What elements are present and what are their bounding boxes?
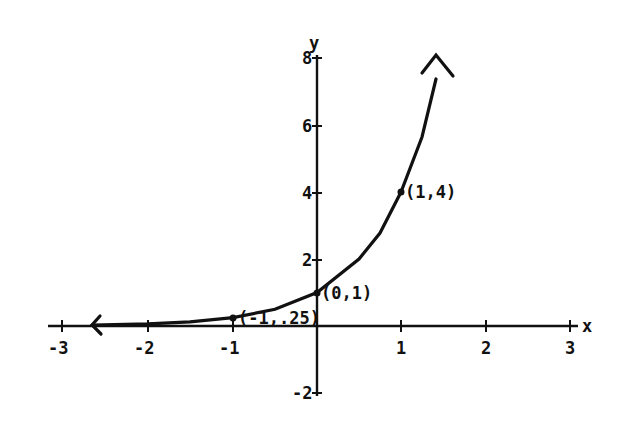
up-arrow-icon [422, 55, 453, 76]
x-tick-label: -1 [219, 338, 239, 358]
point-label: (-1,.25) [238, 308, 320, 328]
exponential-graph: -3 -2 -1 1 2 3 x 8 6 4 2 -2 y (-1,.25) (… [0, 0, 635, 426]
x-axis-label: x [582, 316, 592, 336]
point-label: (0,1) [321, 283, 372, 303]
y-axis-label: y [309, 33, 319, 53]
y-tick-label: -2 [292, 383, 312, 403]
y-tick-label: 6 [302, 116, 312, 136]
x-tick-label: -3 [48, 338, 68, 358]
x-tick-label: 1 [396, 338, 406, 358]
x-tick-label: 3 [565, 338, 575, 358]
exponential-curve [92, 79, 436, 325]
point-label: (1,4) [405, 182, 456, 202]
y-tick-label: 4 [302, 183, 312, 203]
point-marker [314, 290, 321, 297]
point-marker [398, 189, 405, 196]
x-tick-label: -2 [134, 338, 154, 358]
point-marker [230, 315, 237, 322]
x-tick-label: 2 [481, 338, 491, 358]
y-tick-label: 2 [302, 250, 312, 270]
